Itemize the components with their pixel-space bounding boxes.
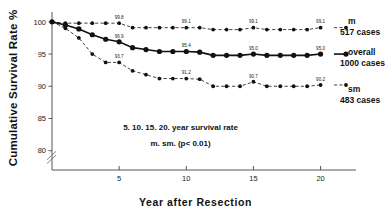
- x-tick-label: 15: [249, 174, 257, 183]
- data-point: [198, 77, 202, 81]
- data-point: [197, 50, 202, 55]
- x-tick-label: 20: [316, 174, 324, 183]
- y-tick-label: 80: [38, 146, 46, 155]
- data-point: [198, 26, 202, 30]
- data-point: [319, 26, 323, 30]
- data-point: [103, 37, 108, 42]
- data-point-label: 95.0: [316, 46, 325, 51]
- y-tick-label: 95: [38, 50, 46, 59]
- x-axis-label: Year after Resection: [0, 196, 391, 208]
- data-point: [157, 49, 162, 54]
- data-point: [144, 73, 148, 77]
- data-point: [64, 26, 68, 30]
- data-point: [225, 84, 229, 88]
- data-point: [184, 26, 188, 30]
- data-point: [238, 28, 242, 32]
- data-point: [278, 28, 282, 32]
- legend-label-sm: sm: [348, 84, 360, 94]
- data-point: [90, 52, 94, 56]
- y-tick-label: 100: [33, 18, 46, 27]
- data-point: [252, 80, 256, 84]
- data-point: [211, 53, 216, 58]
- data-point: [117, 39, 122, 44]
- data-point: [225, 28, 229, 32]
- survival-chart-figure: Cumulative Survival Rate % 10095908580 5…: [0, 0, 391, 217]
- legend-label-m: m: [348, 16, 356, 26]
- data-point-label: 99.1: [249, 19, 258, 24]
- data-point: [264, 53, 269, 58]
- data-point: [278, 84, 282, 88]
- data-point: [211, 84, 215, 88]
- data-point-label: 95.4: [182, 43, 191, 48]
- data-point: [305, 84, 309, 88]
- data-point: [291, 53, 296, 58]
- data-point-label: 95.0: [249, 46, 258, 51]
- data-point: [184, 77, 188, 81]
- data-point: [77, 21, 81, 25]
- data-point: [319, 83, 323, 87]
- data-point: [77, 36, 81, 40]
- y-tick-label: 90: [38, 82, 46, 91]
- data-point: [76, 26, 81, 31]
- data-point: [90, 32, 95, 37]
- data-point: [211, 28, 215, 32]
- data-point: [170, 49, 175, 54]
- data-point-label: 96.9: [115, 34, 124, 39]
- legend-cases-m: 517 cases: [340, 27, 380, 37]
- legend-cases-sm: 483 cases: [340, 95, 380, 105]
- data-point: [237, 53, 242, 58]
- data-point: [238, 84, 242, 88]
- data-point-label: 99.1: [316, 19, 325, 24]
- data-point: [224, 53, 229, 58]
- data-point: [278, 53, 283, 58]
- data-point-label: 99.8: [115, 15, 124, 20]
- data-point: [117, 21, 121, 25]
- data-point-label: 91.2: [182, 70, 191, 75]
- data-point: [144, 26, 148, 30]
- legend-cases-overall: 1000 cases: [340, 58, 385, 68]
- y-tick-label: 85: [38, 114, 46, 123]
- x-tick-group: 5101520: [117, 166, 325, 183]
- data-point: [130, 45, 135, 50]
- data-point: [143, 47, 148, 52]
- data-point-label: 99.1: [182, 19, 191, 24]
- data-point: [171, 77, 175, 81]
- series-group: [49, 19, 323, 88]
- data-point: [117, 61, 121, 65]
- data-point-label: 93.7: [115, 54, 124, 59]
- data-point: [90, 21, 94, 25]
- data-point: [184, 49, 189, 54]
- legend-label-overall: overall: [348, 47, 375, 57]
- x-tick-label: 5: [117, 174, 121, 183]
- annotation-line-1: 5. 10. 15. 20. year survival rate: [60, 123, 301, 132]
- annotation-line-2: m. sm. (p< 0.01): [60, 139, 301, 148]
- data-point: [252, 26, 256, 30]
- y-tick-group: 10095908580: [33, 18, 52, 156]
- data-point: [305, 53, 310, 58]
- data-point: [158, 26, 162, 30]
- data-point: [265, 28, 269, 32]
- data-point: [305, 28, 309, 32]
- data-point: [318, 51, 323, 56]
- x-tick-label: 10: [182, 174, 190, 183]
- data-point: [131, 26, 135, 30]
- data-point: [292, 28, 296, 32]
- data-point-label: 90.2: [316, 77, 325, 82]
- data-point: [158, 77, 162, 81]
- data-point: [131, 69, 135, 73]
- data-point: [251, 51, 256, 56]
- data-point: [292, 84, 296, 88]
- data-point: [104, 21, 108, 25]
- data-point: [104, 61, 108, 65]
- data-point-label: 90.7: [249, 74, 258, 79]
- data-point: [50, 20, 54, 24]
- data-point: [171, 26, 175, 30]
- data-point: [265, 84, 269, 88]
- plot-canvas: 10095908580 5101520 99.899.199.199.196.9…: [0, 0, 391, 217]
